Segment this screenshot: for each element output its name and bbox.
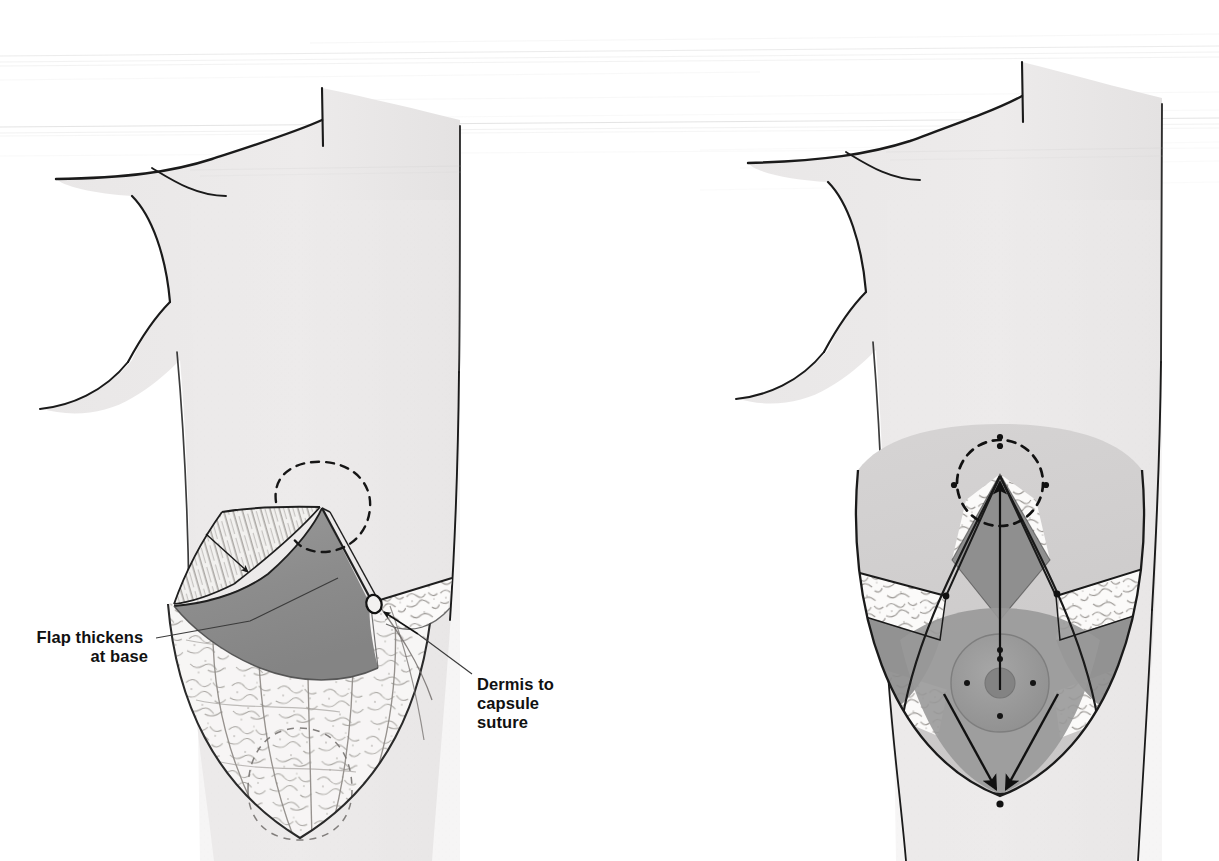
illustration-canvas: Flap thickens at base Dermis to capsule … (0, 0, 1219, 861)
surgical-illustration-figure: Flap thickens at base Dermis to capsule … (0, 0, 1219, 861)
